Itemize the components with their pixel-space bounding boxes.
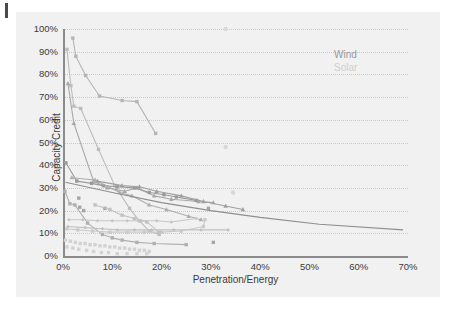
x-tick-label: 30% — [201, 262, 220, 272]
data-point — [76, 228, 79, 231]
legend-item-wind: Wind — [334, 48, 357, 61]
x-tick-label: 20% — [152, 262, 171, 272]
x-tick-label: 50% — [300, 262, 319, 272]
data-point — [108, 230, 111, 233]
data-point — [96, 219, 100, 223]
data-point — [72, 121, 77, 125]
data-point — [180, 229, 183, 232]
data-point — [223, 145, 227, 149]
x-axis-line — [63, 256, 408, 258]
data-point — [133, 228, 137, 232]
data-point — [143, 230, 146, 233]
data-point — [115, 228, 119, 232]
data-point — [135, 241, 138, 244]
data-point — [148, 191, 151, 194]
data-point — [133, 217, 136, 220]
data-point — [67, 218, 71, 222]
data-point — [135, 252, 138, 255]
y-axis-label-wrap: Capacity Credit — [38, 24, 54, 284]
chart-legend: Wind Solar — [334, 48, 357, 74]
data-point — [84, 74, 87, 77]
page-margin-tick — [5, 3, 8, 18]
data-point — [74, 55, 77, 58]
data-point — [133, 247, 136, 250]
data-point — [107, 251, 110, 254]
data-point — [93, 243, 96, 246]
data-point — [90, 182, 93, 185]
x-tick-label: 0% — [56, 262, 70, 272]
x-tick-label: 60% — [349, 262, 368, 272]
data-point — [185, 243, 188, 246]
data-point — [100, 251, 103, 254]
data-point — [226, 228, 230, 232]
data-point — [73, 203, 76, 206]
data-point — [152, 242, 155, 245]
data-point — [125, 230, 128, 233]
data-point — [199, 228, 203, 232]
data-point — [194, 217, 198, 221]
screenshot-root: Capacity Credit 0%10%20%30%40%50%60%70%8… — [0, 0, 452, 315]
data-point — [98, 94, 101, 97]
data-point — [101, 233, 104, 236]
data-point — [66, 81, 71, 85]
data-point — [101, 227, 105, 231]
series-wind-high-c — [66, 81, 216, 204]
data-point — [120, 238, 123, 241]
y-tick-label: 90% — [39, 47, 58, 57]
series-line — [65, 191, 186, 244]
data-point — [123, 246, 126, 249]
data-point — [145, 220, 148, 223]
data-point — [63, 190, 66, 193]
data-point — [212, 241, 215, 244]
legend-item-solar: Solar — [334, 61, 357, 74]
series-wind-mid-c — [95, 179, 245, 211]
data-point — [128, 207, 131, 210]
series-wind-high-a — [71, 36, 157, 135]
data-point — [64, 238, 67, 241]
y-tick-label: 70% — [39, 92, 58, 102]
y-tick-label: 10% — [39, 229, 58, 239]
data-point — [77, 247, 80, 250]
data-point — [97, 148, 100, 151]
y-tick-label: 20% — [39, 206, 58, 216]
data-point — [118, 246, 121, 249]
y-tick-label: 30% — [39, 183, 58, 193]
data-point — [69, 240, 72, 243]
x-axis-label: Penetration/Energy — [63, 274, 408, 285]
data-point — [125, 219, 129, 223]
data-point — [65, 48, 68, 51]
data-point — [116, 252, 119, 255]
data-point — [223, 27, 227, 31]
data-point — [120, 213, 123, 216]
y-tick-label: 60% — [39, 115, 58, 125]
data-point — [86, 221, 89, 224]
data-point — [145, 252, 148, 255]
y-tick-label: 40% — [39, 160, 58, 170]
data-point — [103, 244, 106, 247]
chart-figure: Capacity Credit 0%10%20%30%40%50%60%70%8… — [16, 12, 440, 297]
data-point — [120, 99, 123, 102]
data-point — [135, 100, 138, 103]
data-point — [154, 132, 157, 135]
y-tick-label: 80% — [39, 70, 58, 80]
data-point — [143, 249, 146, 252]
data-point — [64, 161, 67, 164]
x-tick-label: 70% — [398, 262, 417, 272]
data-point — [157, 230, 160, 233]
data-point — [170, 220, 174, 224]
data-point — [108, 208, 111, 211]
data-point — [202, 225, 205, 228]
data-point — [91, 229, 94, 232]
data-point — [138, 249, 141, 252]
data-point — [79, 242, 82, 245]
data-point — [231, 190, 235, 194]
y-tick-label: 100% — [34, 24, 58, 34]
data-point — [203, 218, 206, 221]
data-point — [108, 245, 111, 248]
data-point — [125, 252, 128, 255]
data-point — [74, 241, 77, 244]
data-point — [88, 243, 91, 246]
data-point — [92, 250, 95, 253]
data-point — [98, 244, 101, 247]
data-point — [83, 242, 86, 245]
